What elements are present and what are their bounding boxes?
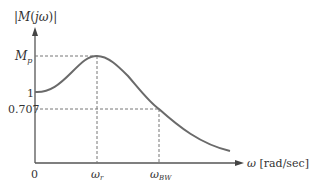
magnitude-curve xyxy=(35,56,230,151)
frequency-response-diagram: |M(jω)| Mp 1 0.707 0 ωr ωBW ω [rad/sec] xyxy=(0,0,309,182)
guide-lines xyxy=(35,56,159,163)
y-axis-arrow-icon xyxy=(32,27,38,36)
y-tick-1: 1 xyxy=(27,87,34,100)
y-tick-0707: 0.707 xyxy=(8,103,40,116)
origin-label: 0 xyxy=(31,168,38,181)
x-tick-wr: ωr xyxy=(91,168,104,182)
axes xyxy=(35,34,236,163)
x-axis-arrow-icon xyxy=(235,160,244,166)
y-tick-mp: Mp xyxy=(14,49,32,65)
x-axis-label: ω [rad/sec] xyxy=(247,157,309,170)
y-axis-label: |M(jω)| xyxy=(14,10,57,24)
x-tick-wbw: ωBW xyxy=(150,168,172,182)
